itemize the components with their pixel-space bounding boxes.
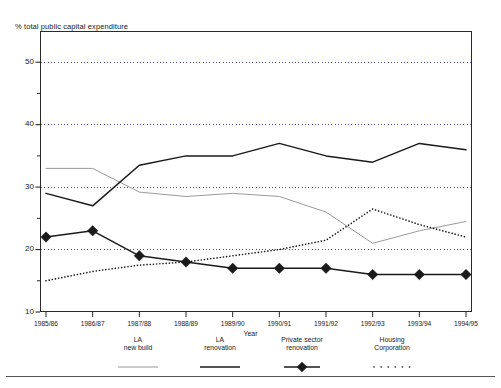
footer-divider: [6, 376, 495, 377]
x-tick-label: 1985/86: [23, 320, 69, 327]
diamond-marker-icon: [297, 362, 307, 372]
legend-item-3[interactable]: HousingCorporation: [340, 336, 444, 368]
x-tick-label: 1992/93: [350, 320, 396, 327]
x-tick-label: 1993/94: [396, 320, 442, 327]
legend-label-line1: Private sector: [250, 336, 354, 344]
plot-area: [40, 31, 472, 312]
legend-item-2[interactable]: Private sectorrenovation: [250, 336, 354, 368]
legend-label-line2: Corporation: [340, 344, 444, 352]
y-tick-label: 50: [12, 57, 34, 66]
legend-swatch-svg: [250, 362, 354, 372]
x-tick-label: 1990/91: [256, 320, 302, 327]
y-tick-label: 40: [12, 119, 34, 128]
dotted-line-icon: [340, 358, 444, 368]
y-tick-label: 30: [12, 182, 34, 191]
chart-figure: % total public capital expenditure 10203…: [0, 0, 501, 388]
diamond-marker-icon: [250, 358, 354, 368]
legend-swatch-svg: [340, 362, 444, 372]
chart-legend: LAnew buildLArenovationPrivate sectorren…: [0, 336, 501, 376]
y-tick-label: 10: [12, 307, 34, 316]
y-tick-label: 20: [12, 244, 34, 253]
x-tick-label: 1991/92: [303, 320, 349, 327]
y-axis-title: % total public capital expenditure: [15, 22, 128, 31]
legend-label-line2: renovation: [250, 344, 354, 352]
x-tick-label: 1994/95: [443, 320, 489, 327]
legend-label-line1: Housing: [340, 336, 444, 344]
x-tick-label: 1987/88: [116, 320, 162, 327]
x-tick-label: 1988/89: [163, 320, 209, 327]
x-tick-label: 1989/90: [210, 320, 256, 327]
x-tick-label: 1986/87: [70, 320, 116, 327]
